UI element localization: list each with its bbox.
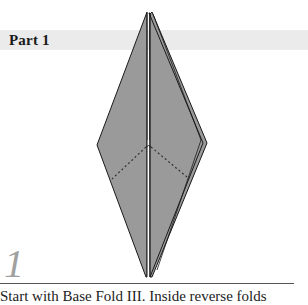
origami-right-flap: [149, 13, 203, 277]
center-slit: [147, 140, 149, 277]
step-number: 1: [4, 246, 24, 282]
origami-diagram: [0, 0, 308, 305]
origami-left-flap: [97, 12, 147, 277]
divider-rule: [0, 283, 294, 284]
step-instruction-text: Start with Base Fold III. Inside reverse…: [0, 287, 308, 305]
